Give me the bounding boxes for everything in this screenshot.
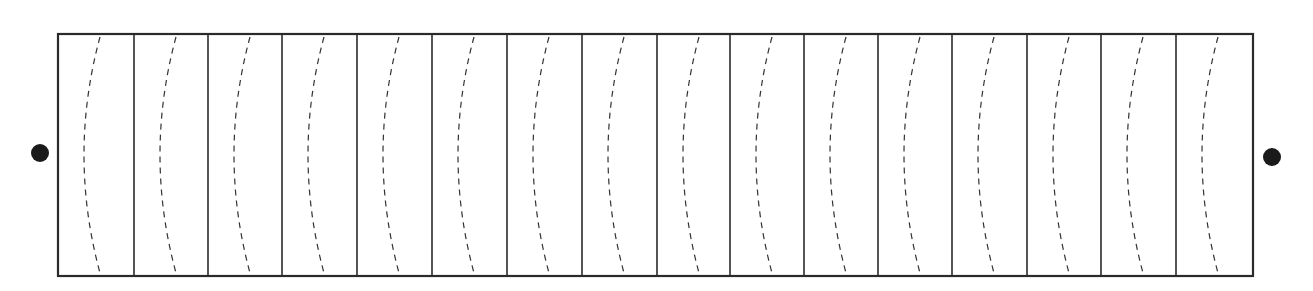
panel-strip-diagram [0,0,1313,291]
dashed-curve [1202,37,1218,273]
dashed-curve [683,37,699,273]
terminals [31,144,1281,166]
dashed-curve [533,37,549,273]
dashed-curve [1053,37,1069,273]
dashed-curve [904,37,920,273]
dashed-curve [308,37,324,273]
frame-rect [58,34,1253,276]
left-terminal-dot [31,144,49,162]
dashed-curve [830,37,846,273]
dashed-curve [160,37,176,273]
dashed-curve [458,37,474,273]
dashed-curve [608,37,624,273]
dashed-curve [756,37,772,273]
panel-dividers [134,34,1176,276]
dashed-curve [1127,37,1143,273]
dashed-field-lines [84,37,1218,273]
right-terminal-dot [1263,148,1281,166]
outer-frame [58,34,1253,276]
dashed-curve [234,37,250,273]
dashed-curve [383,37,399,273]
dashed-curve [978,37,994,273]
dashed-curve [84,37,100,273]
diagram-canvas [0,0,1313,291]
